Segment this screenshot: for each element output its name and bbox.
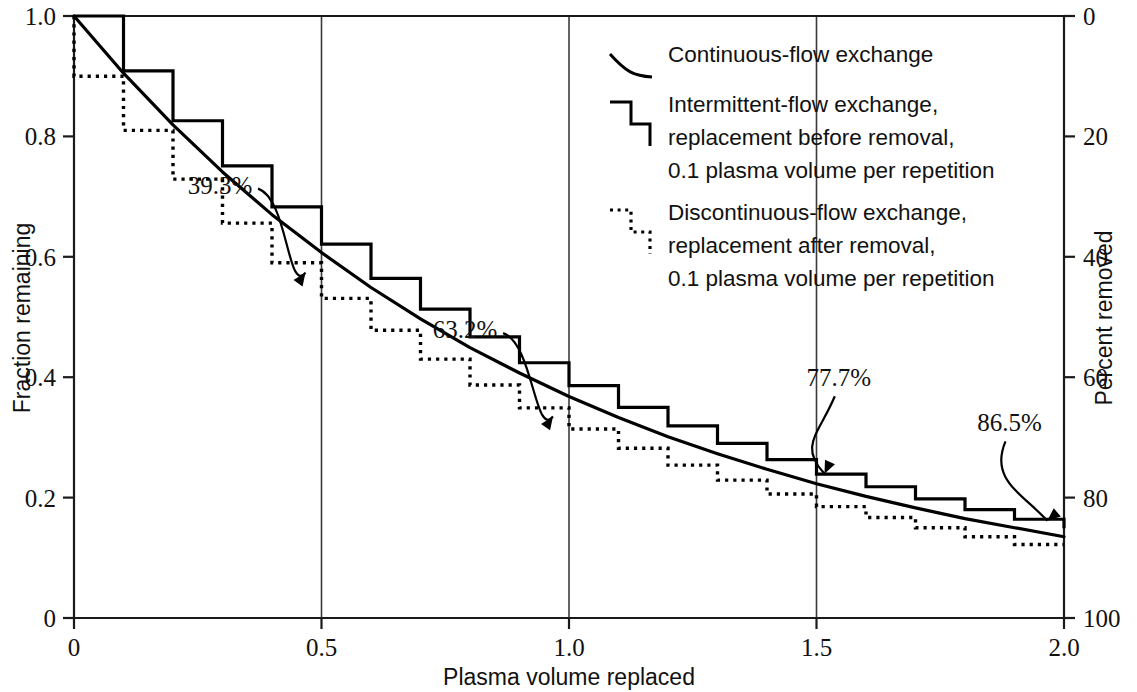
x-axis-title: Plasma volume replaced (443, 664, 695, 690)
legend-label-2-0: Discontinuous-flow exchange, (668, 200, 967, 225)
x-tick-label-1.5: 1.5 (801, 634, 832, 661)
legend-label-0-0: Continuous-flow exchange (668, 42, 933, 67)
y-tick-label-0: 0 (44, 605, 57, 632)
x-tick-label-2: 2.0 (1048, 634, 1079, 661)
annotation-label-39-3pct: 39.3% (188, 172, 253, 199)
x-tick-label-0.5: 0.5 (306, 634, 337, 661)
y-tick-label-1: 1.0 (25, 3, 56, 30)
legend-label-1-0: Intermittent-flow exchange, (668, 92, 938, 117)
legend-label-1-2: 0.1 plasma volume per repetition (668, 158, 994, 183)
legend-label-1-1: replacement before removal, (668, 125, 954, 150)
plasma-exchange-chart: 00.20.40.60.81.002040608010000.51.01.52.… (0, 0, 1137, 692)
annotation-label-63-2pct: 63.2% (433, 316, 498, 343)
annotation-label-77-7pct: 77.7% (806, 364, 871, 391)
y-tick-label-0.8: 0.8 (25, 123, 56, 150)
figure-root: 00.20.40.60.81.002040608010000.51.01.52.… (0, 0, 1137, 692)
legend-entry-1: Intermittent-flow exchange,replacement b… (610, 92, 994, 183)
legend-label-2-1: replacement after removal, (668, 233, 936, 258)
y2-tick-label-100: 100 (1083, 605, 1121, 632)
x-tick-label-1: 1.0 (553, 634, 584, 661)
y2-tick-label-20: 20 (1083, 123, 1108, 150)
y2-tick-label-0: 0 (1083, 3, 1096, 30)
y2-tick-label-80: 80 (1083, 485, 1108, 512)
y2-axis-title: Percent removed (1091, 230, 1117, 405)
annotation-label-86-5pct: 86.5% (977, 409, 1042, 436)
y-tick-label-0.2: 0.2 (25, 485, 56, 512)
legend-label-2-2: 0.1 plasma volume per repetition (668, 266, 994, 291)
y-axis-title: Fraction remaining (9, 223, 35, 413)
x-tick-label-0: 0 (68, 634, 81, 661)
